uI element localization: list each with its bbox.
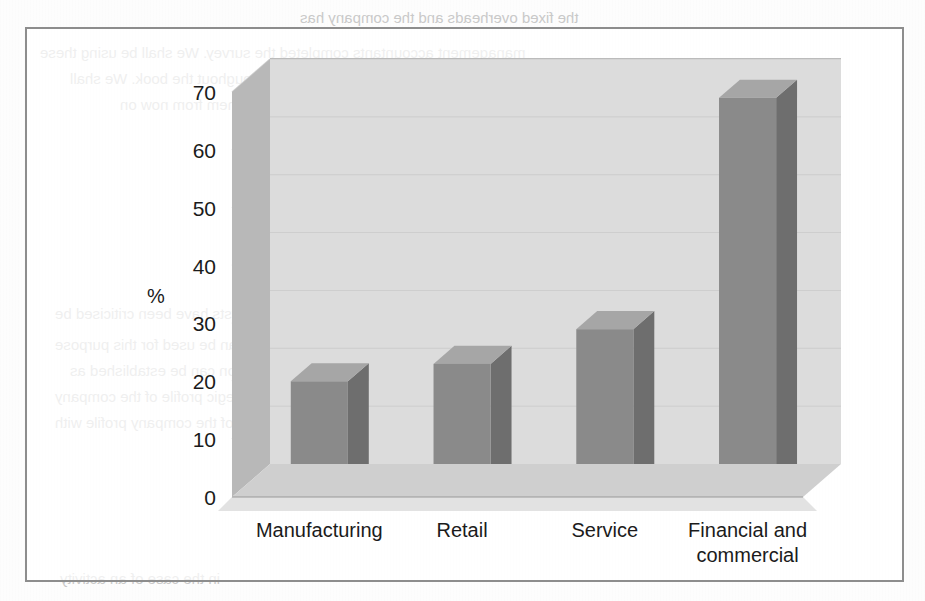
y-tick-label: 50 <box>193 197 216 220</box>
y-axis-title-group: % <box>147 285 165 307</box>
plot-floor <box>232 464 841 497</box>
y-tick-label: 10 <box>193 428 216 451</box>
bar-front-face <box>719 98 776 497</box>
y-tick-label: 0 <box>204 486 216 509</box>
x-category-label: Financial and <box>688 519 807 541</box>
x-category-label: commercial <box>696 544 798 566</box>
y-tick-label: 20 <box>193 370 216 393</box>
bleed-text-line10: the fixed overheads and the company has <box>300 9 579 26</box>
y-tick-label: 70 <box>193 81 216 104</box>
plot-floor-group <box>218 464 841 511</box>
figure-frame: 010203040506070 ManufacturingRetailServi… <box>25 27 904 582</box>
x-category-label: Service <box>571 519 638 541</box>
y-axis-labels: 010203040506070 <box>193 81 216 509</box>
bar-chart: 010203040506070 ManufacturingRetailServi… <box>27 29 906 584</box>
bar-3 <box>719 80 797 497</box>
y-tick-label: 60 <box>193 139 216 162</box>
y-axis-title: % <box>147 285 165 307</box>
bar-side-face <box>776 80 797 497</box>
chart-canvas: 010203040506070 ManufacturingRetailServi… <box>27 29 906 584</box>
floor-front-lip <box>218 497 817 511</box>
left-wall <box>232 59 270 497</box>
y-tick-label: 30 <box>193 312 216 335</box>
x-category-label: Manufacturing <box>256 519 383 541</box>
scanned-page: the fixed overheads and the company has … <box>0 0 925 601</box>
x-category-label: Retail <box>437 519 488 541</box>
y-tick-label: 40 <box>193 255 216 278</box>
x-axis-labels: ManufacturingRetailServiceFinancial andc… <box>256 519 807 566</box>
